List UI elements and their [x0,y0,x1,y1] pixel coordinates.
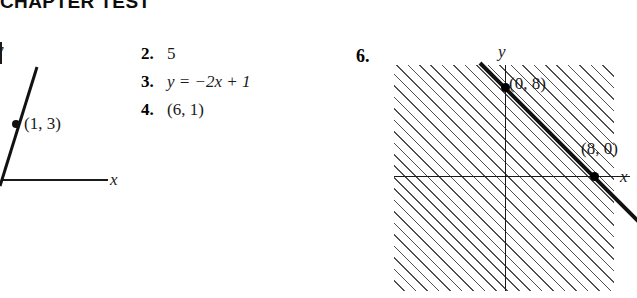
answer-item-2: 2. 5 [141,44,251,72]
answer-item-4: 4. (6, 1) [141,100,251,128]
answer-number: 3. [141,72,165,92]
question-number-6: 6. [356,46,370,67]
boundary-line-drawing [394,65,614,291]
answer-value: y = −2x + 1 [167,72,251,92]
y-axis-label: y [0,40,4,60]
answer-value: 5 [167,44,176,64]
page-title: CHAPTER TEST [0,0,150,13]
y-axis-label: y [498,42,506,62]
x-axis-label: x [110,170,118,190]
answer-item-3: 3. y = −2x + 1 [141,72,251,100]
answer-value: (6, 1) [167,100,204,120]
answer-key-page: CHAPTER TEST y x (1, 3) 2. 5 3. y = −2x … [0,0,637,298]
point-label-1-3: (1, 3) [24,114,61,134]
answer-number: 2. [141,44,165,64]
point-label-8-0: (8, 0) [581,139,618,159]
point-dot-8-0 [590,172,599,181]
graph-question-1: y x (1, 3) [0,34,132,194]
point-dot-1-3 [12,120,20,128]
graph-question-6: 6. y x (0, 8) (8, 0) [352,40,637,298]
answer-number: 4. [141,100,165,120]
point-label-0-8: (0, 8) [509,74,546,94]
answer-list: 2. 5 3. y = −2x + 1 4. (6, 1) [141,44,251,128]
x-axis-label: x [620,167,628,187]
